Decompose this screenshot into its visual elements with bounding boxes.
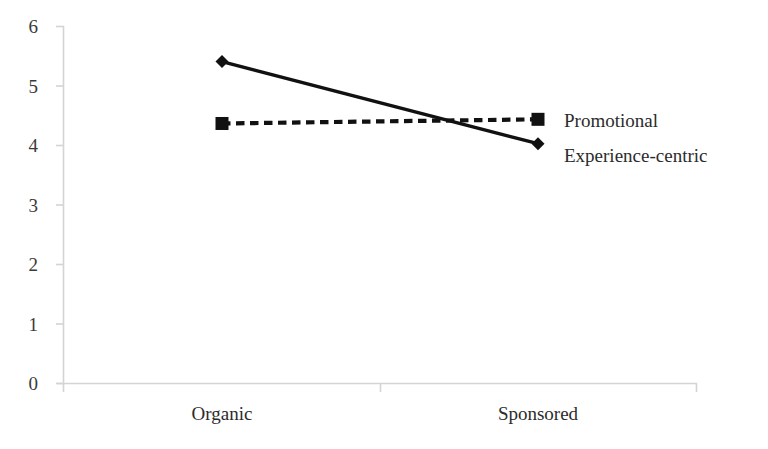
series-experience-centric-marker-sponsored bbox=[532, 137, 545, 150]
plot-area bbox=[0, 0, 768, 449]
series-promotional-marker-sponsored bbox=[532, 113, 545, 126]
x-tick-label-sponsored: Sponsored bbox=[498, 404, 578, 424]
legend-entry-promotional: Promotional bbox=[564, 110, 658, 131]
y-tick-label-0: 0 bbox=[12, 374, 38, 393]
y-tick-label-1: 1 bbox=[12, 315, 38, 334]
series-promotional-marker-organic bbox=[216, 117, 229, 130]
x-tick-label-organic: Organic bbox=[192, 404, 253, 424]
line-chart: 6 5 4 3 2 1 0 Organic Sponsored Promotio… bbox=[0, 0, 768, 449]
y-tick-label-2: 2 bbox=[12, 255, 38, 274]
y-tick-label-6: 6 bbox=[12, 17, 38, 36]
y-tick-label-4: 4 bbox=[12, 136, 38, 155]
series-promotional bbox=[216, 113, 545, 130]
series-promotional-line bbox=[222, 119, 538, 123]
x-axis-ticks bbox=[64, 384, 697, 393]
legend-entry-experience-centric: Experience-centric bbox=[564, 145, 707, 166]
series-experience-centric bbox=[216, 55, 545, 150]
series-experience-centric-marker-organic bbox=[216, 55, 229, 68]
series-experience-centric-line bbox=[222, 62, 538, 144]
y-tick-label-3: 3 bbox=[12, 196, 38, 215]
y-tick-label-5: 5 bbox=[12, 77, 38, 96]
